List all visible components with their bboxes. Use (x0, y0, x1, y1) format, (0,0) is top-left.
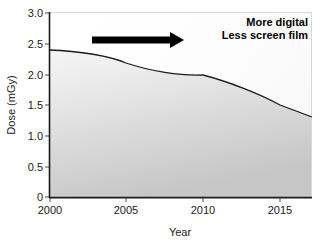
y-tick-labels: 3.0 2.5 2.0 1.5 1.0 0.5 0 (28, 7, 43, 203)
y-tick-label-2-5: 2.5 (28, 38, 43, 50)
dose-trend-chart: 3.0 2.5 2.0 1.5 1.0 0.5 0 2000 2005 2010… (0, 0, 323, 241)
y-tick-label-3-0: 3.0 (28, 7, 43, 19)
x-axis-title: Year (169, 226, 192, 238)
y-tick-label-1-0: 1.0 (28, 130, 43, 142)
y-tick-label-1-5: 1.5 (28, 99, 43, 111)
x-tick-label-2010: 2010 (191, 204, 215, 216)
x-tick-label-2005: 2005 (114, 204, 138, 216)
x-tick-label-2000: 2000 (38, 204, 62, 216)
y-tick-label-0: 0 (37, 191, 43, 203)
y-tick-label-2-0: 2.0 (28, 69, 43, 81)
callout-line-2: Less screen film (222, 29, 308, 41)
callout-line-1: More digital (246, 16, 308, 28)
x-tick-label-2015: 2015 (268, 204, 292, 216)
y-tick-label-0-5: 0.5 (28, 161, 43, 173)
x-tick-labels: 2000 2005 2010 2015 (38, 204, 292, 216)
y-axis-title: Dose (mGy) (5, 75, 17, 134)
x-tick-marks (50, 198, 280, 202)
y-tick-marks (45, 13, 49, 197)
chart-figure: 3.0 2.5 2.0 1.5 1.0 0.5 0 2000 2005 2010… (0, 0, 323, 241)
